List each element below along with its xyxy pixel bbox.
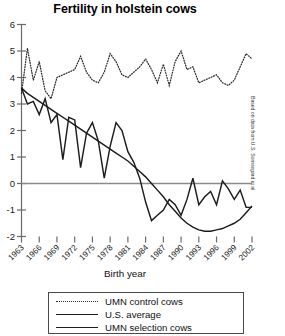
series-line-2 [22,88,253,221]
data-series-group [22,48,253,231]
y-tick-label: 0 [10,178,15,189]
legend-item-selection: UMN selection cows [49,321,243,334]
series-line-0 [22,48,253,98]
y-tick-label: 5 [10,45,15,56]
legend-item-us-average: U.S. average [49,308,243,321]
solid-line-swatch-icon [56,310,98,319]
fertility-chart: Fertility in holstein cows 6543210-1-2 1… [0,0,285,336]
y-tick-label: 2 [10,125,15,136]
x-tick-label: 2002 [237,243,257,263]
x-tick-label: 1987 [149,243,169,263]
plot-area: 6543210-1-2 1963196619691972197519781981… [0,0,285,336]
x-tick-label: 1975 [78,243,98,263]
y-tick-label: 1 [10,151,15,162]
x-tick-label: 1999 [219,243,239,263]
x-tick-label: 1969 [42,243,62,263]
legend-item-label: UMN control cows [105,296,183,307]
x-tick-label: 1993 [184,243,204,263]
x-tick-label: 1996 [202,243,222,263]
x-tick-label: 1963 [7,243,27,263]
x-tick-label: 1984 [131,243,151,263]
legend: UMN control cows U.S. average UMN select… [48,292,244,334]
solid-line-swatch-icon [56,323,98,332]
x-tick-label: 1966 [24,243,44,263]
legend-item-control: UMN control cows [49,295,243,308]
x-axis-title: Birth year [0,268,250,279]
x-tick-label: 1978 [95,243,115,263]
y-axis: 6543210-1-2 [7,19,252,242]
y-tick-label: 4 [10,72,15,83]
y-tick-label: 6 [10,19,15,30]
x-tick-label: 1972 [60,243,80,263]
y-tick-label: 3 [10,98,15,109]
series-line-1 [22,88,253,231]
legend-item-label: UMN selection cows [105,322,192,333]
source-annotation: Based on data from U.S. Sonstegard et al [250,96,256,236]
y-tick-label: -2 [7,231,15,242]
y-tick-label: -1 [7,204,15,215]
x-tick-label: 1981 [113,243,133,263]
legend-item-label: U.S. average [105,309,161,320]
x-tick-label: 1990 [166,243,186,263]
x-axis: 1963196619691972197519781981198419871990… [7,237,257,263]
dotted-line-swatch-icon [56,297,98,306]
